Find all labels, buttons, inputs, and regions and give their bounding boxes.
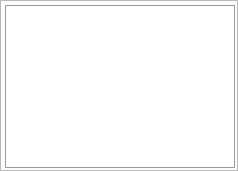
chart-plot-area	[6, 6, 235, 168]
chart-panel	[5, 5, 235, 168]
image-frame	[0, 0, 238, 171]
